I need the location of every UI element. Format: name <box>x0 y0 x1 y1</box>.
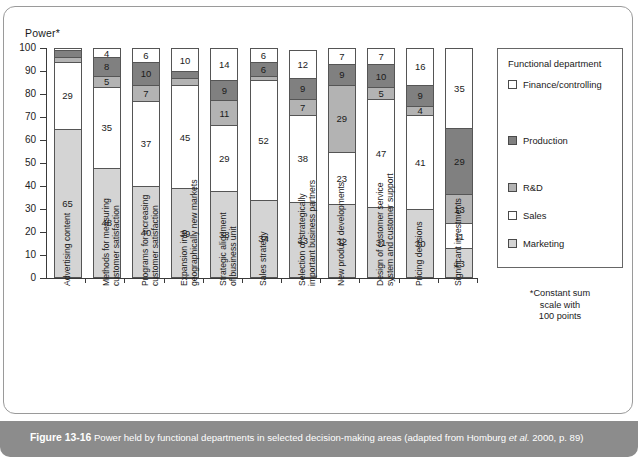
x-axis-tick <box>399 278 400 283</box>
bar-segment: 37 <box>132 101 160 186</box>
x-axis-tick <box>124 278 125 283</box>
bar-segment-value: 12 <box>297 60 308 69</box>
bar-segment-value: 29 <box>219 154 230 163</box>
bar-segment-value: 4 <box>418 106 423 115</box>
bar-segment-value: 7 <box>378 52 383 61</box>
bar-segment-value: 9 <box>418 91 423 100</box>
y-axis-tick-label: 70 <box>0 112 36 122</box>
caption-citation: et al. <box>509 432 530 443</box>
y-axis-title: Power* <box>25 27 60 39</box>
legend-item[interactable]: Finance/controlling <box>508 79 602 90</box>
x-axis-tick <box>203 278 204 283</box>
bar-segment: 11 <box>210 100 238 125</box>
bar-segment-value: 9 <box>339 70 344 79</box>
bar-segment-value: 65 <box>62 199 73 208</box>
bar-segment: 41 <box>406 115 434 209</box>
y-axis-line <box>46 48 47 279</box>
bar-segment-value: 9 <box>300 84 305 93</box>
y-axis-tick <box>40 209 46 210</box>
bar-segment: 14 <box>210 48 238 80</box>
y-axis-tick <box>40 48 46 49</box>
bar-segment: 29 <box>54 62 82 129</box>
bar-segment <box>171 78 199 85</box>
bar-segment <box>54 50 82 57</box>
bar-segment-value: 38 <box>297 154 308 163</box>
bar-segment-value: 7 <box>339 52 344 61</box>
bar-segment-value: 41 <box>415 158 426 167</box>
bar-segment: 29 <box>445 128 473 194</box>
bar-segment-value: 35 <box>454 84 465 93</box>
y-axis-tick <box>40 255 46 256</box>
bar-segment-value: 10 <box>376 72 387 81</box>
bar-segment-value: 11 <box>219 109 229 118</box>
y-axis-tick-label: 20 <box>0 227 36 237</box>
x-axis-tick <box>164 278 165 283</box>
bar-segment: 6 <box>250 62 278 76</box>
x-axis-tick <box>438 278 439 283</box>
y-axis-tick-label: 60 <box>0 135 36 145</box>
bar-segment-value: 9 <box>222 86 227 95</box>
legend-item[interactable]: R&D <box>508 182 543 193</box>
bar-segment-value: 6 <box>261 65 266 74</box>
bar-segment-value: 7 <box>143 89 148 98</box>
legend-swatch-icon <box>508 211 517 220</box>
legend-title: Functional department <box>508 58 601 69</box>
footnote-line: *Constant sum <box>497 288 623 300</box>
legend-item-label: Marketing <box>523 238 564 249</box>
bar-segment: 16 <box>406 48 434 85</box>
legend: Functional department Finance/controllin… <box>497 48 623 268</box>
legend-item[interactable]: Marketing <box>508 238 564 249</box>
bar-segment: 7 <box>289 99 317 115</box>
legend-item[interactable]: Production <box>508 135 568 146</box>
bar-segment-value: 16 <box>415 62 426 71</box>
x-axis-label: Programs for increasing customer satisfa… <box>141 195 160 286</box>
legend-swatch-icon <box>508 239 517 248</box>
legend-item-label: Production <box>523 135 568 146</box>
bar-segment-value: 35 <box>101 123 112 132</box>
bar-segment: 12 <box>289 50 317 78</box>
bar-segment: 29 <box>328 85 356 152</box>
x-axis-tick <box>281 278 282 283</box>
legend-swatch-icon <box>508 183 517 192</box>
y-axis-tick-label: 80 <box>0 89 36 99</box>
y-axis-tick-label: 0 <box>0 273 36 283</box>
bar-segment-value: 7 <box>300 103 305 112</box>
y-axis-tick-label: 40 <box>0 181 36 191</box>
x-axis-label: New product developments <box>337 182 347 286</box>
bar-segment: 52 <box>250 80 278 200</box>
caption-text: Figure 13-16 Power held by functional de… <box>30 430 583 446</box>
legend-swatch-icon <box>508 80 517 89</box>
caption-body-b: 2000, p. 89) <box>530 432 584 443</box>
x-axis-label: Significant investments <box>454 198 464 286</box>
bar-segment: 7 <box>367 48 395 64</box>
bar-segment-value: 29 <box>337 114 348 123</box>
bar-segment-value: 52 <box>258 136 269 145</box>
legend-item[interactable]: Sales <box>508 210 546 221</box>
x-axis-tick <box>320 278 321 283</box>
caption-number: Figure 13-16 <box>30 432 91 443</box>
bar-segment-value: 6 <box>143 51 148 60</box>
bar-segment-value: 29 <box>454 157 465 166</box>
y-axis-tick <box>40 278 46 279</box>
y-axis-tick-label: 90 <box>0 66 36 76</box>
bar-segment: 10 <box>367 64 395 87</box>
x-axis-label: Strategic alignment of business unit <box>219 212 238 286</box>
y-axis-tick-label: 30 <box>0 204 36 214</box>
bar-segment: 9 <box>328 64 356 85</box>
y-axis-tick <box>40 163 46 164</box>
bar-segment-value: 29 <box>62 91 73 100</box>
bar-segment: 35 <box>93 87 121 168</box>
x-axis-label: Selection of strategically important bus… <box>298 180 317 286</box>
x-axis-label: Pricing decisions <box>415 222 425 286</box>
bar-segment <box>171 71 199 78</box>
bar-segment-value: 45 <box>180 133 191 142</box>
bar-segment: 9 <box>289 78 317 99</box>
y-axis-tick <box>40 140 46 141</box>
y-axis-tick <box>40 71 46 72</box>
y-axis-tick-label: 100 <box>0 43 36 53</box>
y-axis-tick <box>40 94 46 95</box>
bar-segment-value: 47 <box>376 149 387 158</box>
bar-segment: 7 <box>132 85 160 101</box>
x-axis-label: Design of customer service system and cu… <box>376 173 395 286</box>
x-axis-label: Advertising content <box>63 213 73 286</box>
